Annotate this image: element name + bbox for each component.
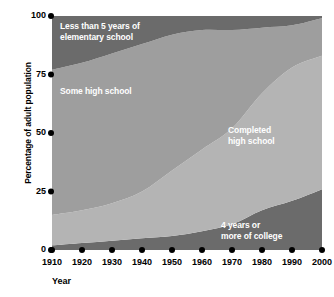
x-tick-label-1970: 1970 [215, 258, 249, 267]
x-axis-title: Year [52, 276, 71, 286]
x-tick-label-1910: 1910 [35, 258, 69, 267]
x-tick-label-1960: 1960 [185, 258, 219, 267]
x-axis-tick-labels: 1910192019301940195019601970198019902000 [0, 0, 334, 297]
stacked-area-chart: Percentage of adult population 025507510… [0, 0, 334, 297]
band-label-less-than-5-years-elementary: Less than 5 years of elementary school [60, 21, 140, 42]
x-tick-label-1920: 1920 [65, 258, 99, 267]
band-label-4-years-or-more-college: 4 years or more of college [221, 220, 282, 241]
x-tick-label-1990: 1990 [275, 258, 309, 267]
x-tick-label-1980: 1980 [245, 258, 279, 267]
band-label-completed-high-school: Completed high school [228, 125, 275, 146]
band-label-some-high-school: Some high school [60, 86, 132, 97]
x-tick-label-1940: 1940 [125, 258, 159, 267]
x-tick-label-2000: 2000 [305, 258, 334, 267]
x-tick-label-1950: 1950 [155, 258, 189, 267]
x-tick-label-1930: 1930 [95, 258, 129, 267]
